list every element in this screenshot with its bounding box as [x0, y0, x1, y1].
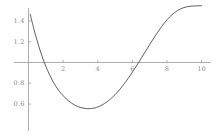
y-tick-label: 0.6: [0, 101, 25, 108]
x-tick-label: 6: [130, 66, 134, 73]
y-tick-label: 1.4: [0, 18, 25, 25]
x-tick-label: 8: [165, 66, 169, 73]
x-tick-label: 4: [96, 66, 100, 73]
x-tick-label: 2: [61, 66, 65, 73]
data-curve: [30, 6, 201, 109]
y-tick-label: 0.8: [0, 80, 25, 87]
x-tick-label: 10: [197, 66, 206, 73]
plot-canvas: [0, 0, 219, 137]
plot-figure: 246810 1.41.20.80.6: [0, 0, 219, 137]
y-tick-label: 1.2: [0, 38, 25, 45]
